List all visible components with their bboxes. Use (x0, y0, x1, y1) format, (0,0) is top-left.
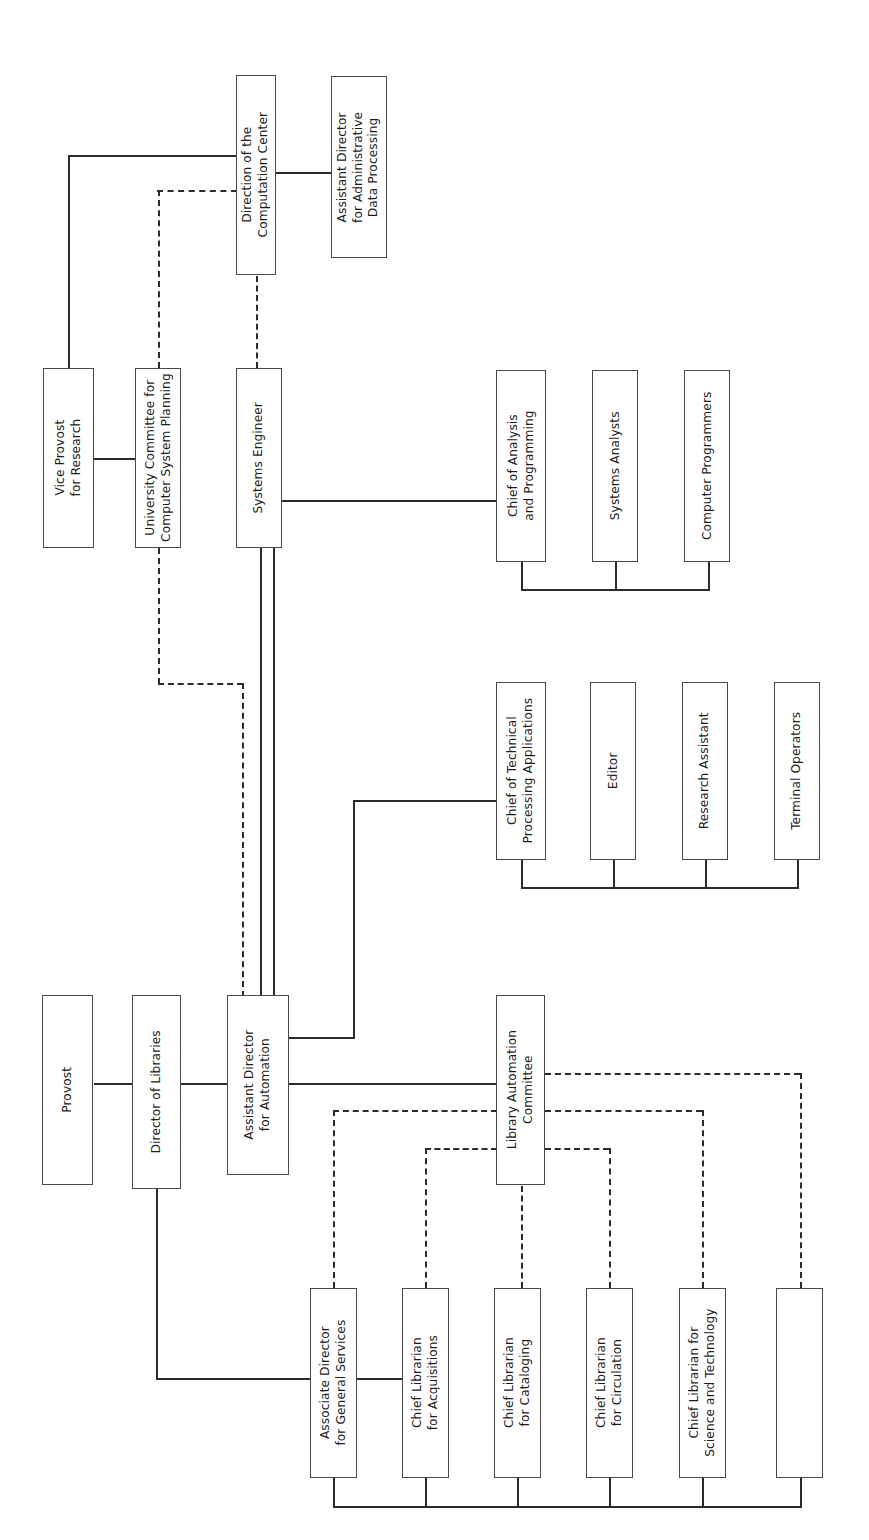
node-label: Systems Analysts (607, 412, 623, 521)
node-university-committee[interactable]: University Committee forComputer System … (135, 368, 181, 548)
connector-terminal-down (797, 860, 799, 888)
connector-analysis-down (521, 562, 523, 590)
connector-library-bus (333, 1506, 802, 1508)
connector-asstdir-tech-stub (289, 1037, 355, 1039)
node-provost[interactable]: Provost (42, 995, 93, 1185)
dashed-lac-circ-h (545, 1148, 609, 1150)
node-label: Director of Libraries (149, 1030, 165, 1153)
node-library-automation-committee[interactable]: Library AutomationCommittee (496, 995, 545, 1185)
dashed-lac-assoc-v (333, 1110, 335, 1288)
node-label: Assistant Directorfor Automation (242, 1030, 273, 1140)
connector-editor-down (613, 860, 615, 888)
node-label: Chief Librarian forScience and Technolog… (687, 1309, 718, 1457)
dashed-committee-down-h (158, 683, 243, 685)
node-vice-provost-research[interactable]: Vice Provostfor Research (43, 368, 94, 548)
connector-programmers-down (708, 562, 710, 590)
connector-cat-down (517, 1477, 519, 1507)
node-label: Associate Directorfor General Services (318, 1320, 349, 1446)
node-associate-director-general-services[interactable]: Associate Directorfor General Services (310, 1288, 357, 1478)
connector-assoc-acquisitions (357, 1378, 402, 1380)
connector-director-to-assoc (156, 1378, 312, 1380)
dashed-committee-to-dcc (157, 190, 237, 192)
node-research-assistant[interactable]: Research Assistant (682, 682, 728, 860)
connector-analysis-bus (521, 589, 710, 591)
node-chief-technical-processing[interactable]: Chief of TechnicalProcessing Application… (496, 682, 546, 860)
node-label: Provost (60, 1067, 76, 1113)
dashed-lac-acq-v (425, 1148, 427, 1288)
dashed-lac-scitech-v (702, 1110, 704, 1288)
dashed-lac-scitech-h (545, 1110, 702, 1112)
connector-unlabeled-down (800, 1477, 802, 1507)
node-assistant-director-automation[interactable]: Assistant Directorfor Automation (227, 995, 289, 1175)
connector-asstdir-analysis-vert (273, 500, 275, 997)
connector-scitech-down (702, 1477, 704, 1507)
node-label: Terminal Operators (789, 712, 805, 830)
connector-circ-down (609, 1477, 611, 1507)
node-label: Direction of theComputation Center (240, 112, 271, 238)
dashed-lac-acq-h (425, 1148, 497, 1150)
connector-tech-down (521, 860, 523, 888)
connector-director-asstdir (181, 1083, 227, 1085)
node-label: University Committee forComputer System … (142, 374, 173, 543)
dashed-dcc-sysengineer (256, 276, 258, 368)
node-label: Library AutomationCommittee (505, 1030, 536, 1149)
dashed-lac-circ-v (609, 1148, 611, 1288)
node-label: Systems Engineer (251, 402, 267, 514)
connector-to-computation-center (68, 155, 237, 157)
node-label: Chief Librarianfor Acquisitions (410, 1335, 441, 1430)
node-label: Chief Librarianfor Cataloging (502, 1338, 533, 1429)
node-chief-analysis-programming[interactable]: Chief of Analysisand Programming (496, 370, 546, 562)
connector-tech-in (353, 800, 496, 802)
node-chief-librarian-science-technology[interactable]: Chief Librarian forScience and Technolog… (679, 1288, 726, 1478)
connector-research-down (705, 860, 707, 888)
dashed-committee-to-asstdir (242, 683, 244, 997)
node-editor[interactable]: Editor (590, 682, 636, 860)
dashed-lac-down (521, 1186, 523, 1288)
connector-assoc-down (333, 1477, 335, 1507)
dashed-lac-unlabeled-v (800, 1073, 802, 1288)
node-direction-computation-center[interactable]: Direction of theComputation Center (236, 75, 276, 275)
connector-acq-down (425, 1477, 427, 1507)
node-chief-librarian-acquisitions[interactable]: Chief Librarianfor Acquisitions (402, 1288, 449, 1478)
node-systems-engineer[interactable]: Systems Engineer (236, 368, 282, 548)
node-label: Assistant Directorfor AdministrativeData… (336, 111, 383, 222)
dashed-committee-up (158, 190, 160, 368)
node-computer-programmers[interactable]: Computer Programmers (684, 370, 730, 562)
connector-director-down (156, 1189, 158, 1379)
node-chief-librarian-cataloging[interactable]: Chief Librarianfor Cataloging (494, 1288, 541, 1478)
org-chart-canvas: Direction of theComputation Center Assis… (0, 0, 869, 1540)
node-director-of-libraries[interactable]: Director of Libraries (132, 995, 181, 1189)
dashed-lac-unlabeled-h (545, 1073, 800, 1075)
node-label: Research Assistant (697, 712, 713, 829)
dashed-committee-down (158, 548, 160, 684)
node-systems-analysts[interactable]: Systems Analysts (592, 370, 638, 562)
node-chief-librarian-circulation[interactable]: Chief Librarianfor Circulation (586, 1288, 633, 1478)
connector-dcc-adp (274, 172, 332, 174)
node-label: Chief of Analysisand Programming (505, 411, 536, 521)
connector-provost-director (94, 1083, 134, 1085)
dashed-lac-assoc-h (333, 1110, 497, 1112)
connector-viceprovost-committee (93, 458, 135, 460)
node-label: Computer Programmers (699, 392, 715, 541)
node-label: Vice Provostfor Research (53, 419, 84, 497)
connector-analysis-in (273, 500, 496, 502)
connector-sysengineer-down (260, 548, 262, 997)
connector-asstdir-tech-vert (353, 800, 355, 1039)
node-unlabeled-unit[interactable] (776, 1288, 823, 1478)
connector-viceprovost-up (68, 155, 70, 368)
node-assistant-director-adp[interactable]: Assistant Directorfor AdministrativeData… (331, 76, 387, 258)
connector-sysanalysts-down (615, 562, 617, 590)
connector-asstdir-lac (289, 1083, 497, 1085)
node-label: Chief of TechnicalProcessing Application… (505, 698, 536, 844)
node-terminal-operators[interactable]: Terminal Operators (774, 682, 820, 860)
node-label: Editor (605, 753, 621, 790)
node-label: Chief Librarianfor Circulation (594, 1338, 625, 1429)
connector-tech-bus (521, 887, 799, 889)
